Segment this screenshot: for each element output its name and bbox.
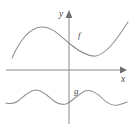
graph-canvas: y x f g [0,0,132,129]
x-axis-arrow-icon [120,67,127,74]
x-axis-label: x [120,74,126,84]
y-axis-label: y [58,9,64,19]
curve-f [12,22,128,58]
curve-f-label: f [78,30,82,40]
curve-g-label: g [74,86,79,96]
curve-g [6,90,127,105]
y-axis-arrow-icon [66,10,73,18]
function-graph-figure: y x f g [0,0,132,129]
